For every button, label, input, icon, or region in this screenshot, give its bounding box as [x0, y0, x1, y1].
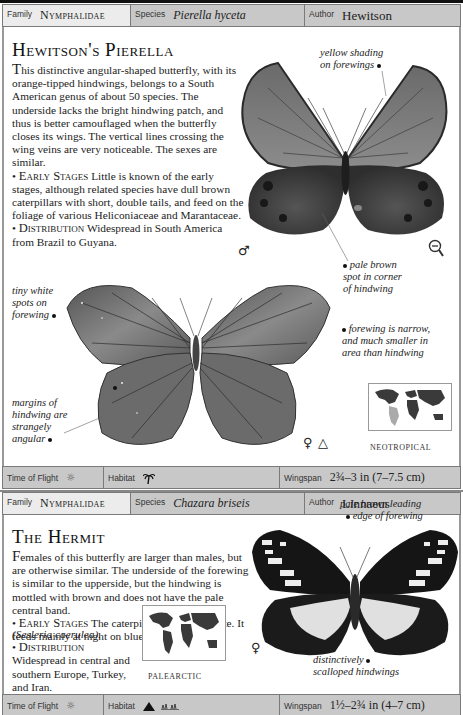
sun-day-flight-icon: ☼ [66, 700, 75, 711]
entry-hewitsons-pierella: Family Nymphalidae Species Pierella hyce… [0, 0, 463, 488]
habitat-cell: Habitat [104, 695, 280, 715]
author-label: Author [309, 9, 334, 19]
distribution-map-palearctic [142, 605, 226, 661]
footer-bar: Time of Flight ☼ Habitat Wingspan 1½–2¾ … [2, 694, 461, 715]
pointer-dot [343, 264, 347, 268]
annotation-forewing-narrow: forewing is narrow, and much smaller in … [342, 323, 430, 359]
species-value: Chazara briseis [173, 496, 249, 511]
female-symbol-icon: ♀ [251, 640, 261, 655]
family-value: Nymphalidae [40, 8, 105, 23]
pointer-dot [366, 659, 370, 663]
habitat-cell: Habitat [104, 467, 280, 488]
bullet: • [12, 222, 19, 234]
species-value: Pierella hyceta [173, 8, 246, 23]
species-cell: Species Pierella hyceta [131, 5, 305, 26]
time-of-flight-label: Time of Flight [7, 701, 58, 711]
habitat-label: Habitat [108, 473, 135, 483]
bullet: • [12, 170, 19, 182]
annotation-yellow-shading: yellow shading on forewings [320, 47, 383, 71]
distribution-heading: Distribution [19, 640, 85, 654]
annotation-pale-brown-spot: pale brown spot in corner of hindwing [343, 259, 402, 295]
habitat-label: Habitat [108, 701, 135, 711]
wingspan-value: 2¾–3 in (7–7.5 cm) [330, 470, 425, 485]
pointer-dot [342, 328, 346, 332]
time-of-flight-label: Time of Flight [7, 473, 58, 483]
annotation-tiny-white-spots: tiny white spots on forewing [12, 285, 56, 321]
butterfly-upperside-image [238, 58, 453, 238]
bullet: • [12, 641, 19, 653]
butterfly-hermit-image [250, 522, 460, 662]
entry-the-hermit: Family Nymphalidae Species Chazara brise… [0, 490, 463, 715]
family-value: Nymphalidae [40, 496, 105, 511]
description-block-continued: (Sesleria caerulea). • DistributionWides… [12, 628, 134, 694]
species-title: Hewitson's Pierella [12, 39, 174, 61]
distribution: • DistributionWidespread in central and … [12, 641, 134, 694]
footer-bar: Time of Flight ☼ Habitat Wingspan 2¾–3 i… [2, 466, 461, 489]
wingspan-cell: Wingspan 2¾–3 in (7–7.5 cm) [280, 467, 460, 488]
species-label: Species [135, 9, 165, 19]
species-label: Species [135, 497, 165, 507]
header-bar: Family Nymphalidae Species Pierella hyce… [2, 4, 461, 27]
pointer-dot [48, 438, 52, 442]
sun-day-flight-icon: ☼ [66, 472, 75, 483]
author-cell: Author Hewitson [305, 5, 460, 26]
annotation-scalloped-hindwings: distinctively scalloped hindwings [313, 654, 399, 678]
mountain-habitat-icon [143, 701, 155, 711]
description: This distinctive angular-shaped butterfl… [12, 63, 244, 170]
family-label: Family [7, 497, 32, 507]
author-value: Hewitson [342, 8, 392, 24]
species-cell: Species Chazara briseis [131, 493, 305, 514]
map-region-label: PALEARCTIC [148, 672, 202, 681]
grassland-habitat-icon [161, 702, 179, 710]
description-block: This distinctive angular-shaped butterfl… [12, 63, 244, 249]
pointer-dot [52, 314, 56, 318]
distribution: • Distribution Widespread in South Ameri… [12, 222, 244, 248]
wingspan-cell: Wingspan 1½–2¾ in (4–7 cm) [280, 695, 460, 715]
species-title: The Hermit [12, 526, 105, 548]
early-stages-heading: Early Stages [19, 169, 89, 183]
annotation-pale-brown-leading-edge: pale brown leading edge of forewing [340, 498, 423, 522]
author-label: Author [309, 497, 334, 507]
drop-initial: T [12, 61, 21, 77]
annotation-margins: margins of hindwing are strangely angula… [12, 397, 67, 445]
distribution-map-neotropical [368, 383, 452, 431]
underside-triangle-icon: △ [318, 435, 328, 450]
time-of-flight-cell: Time of Flight ☼ [3, 695, 104, 715]
palm-tree-tropical-forest-icon [143, 472, 155, 484]
pointer-dot [346, 515, 350, 519]
family-label: Family [7, 9, 32, 19]
map-region-label: NEOTROPICAL [370, 443, 431, 452]
time-of-flight-cell: Time of Flight ☼ [3, 467, 104, 488]
family-cell: Family Nymphalidae [3, 5, 131, 26]
early-stages: • Early Stages Little is known of the ea… [12, 170, 244, 223]
distribution-heading: Distribution [19, 221, 85, 235]
female-symbol-icon: ♀ [303, 435, 313, 450]
wingspan-label: Wingspan [284, 473, 322, 483]
wingspan-value: 1½–2¾ in (4–7 cm) [330, 698, 425, 713]
family-cell: Family Nymphalidae [3, 493, 131, 514]
pointer-dot [377, 64, 381, 68]
wingspan-label: Wingspan [284, 701, 322, 711]
butterfly-underside-image [62, 273, 342, 453]
magnifier-zoom-out-icon[interactable] [428, 239, 444, 257]
male-symbol-icon: ♂ [238, 243, 250, 258]
